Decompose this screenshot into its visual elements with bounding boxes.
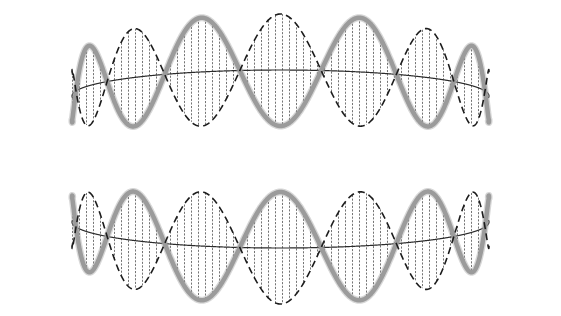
figure-root <box>0 0 561 316</box>
standing-wave-cylinder-canvas <box>0 0 561 316</box>
